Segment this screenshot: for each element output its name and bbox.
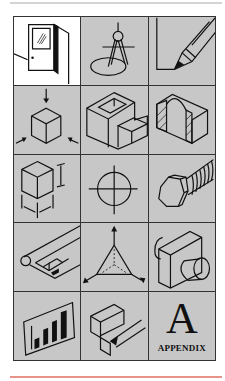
- compass-icon: [81, 17, 147, 85]
- door-icon: [14, 17, 80, 85]
- grid-cell-hex-bolt: [149, 155, 215, 223]
- grid-cell-isometric-axes: [81, 223, 147, 291]
- grid-cell-section-block: [149, 86, 215, 154]
- bar-chart-icon: [14, 292, 80, 360]
- cube-view-arrows-icon: [14, 86, 80, 154]
- blueprint-scroll-icon: [14, 223, 80, 291]
- pencil-corner-icon: [149, 17, 215, 85]
- hollow-block-icon: [81, 86, 147, 154]
- grid-cell-sketching: [81, 292, 147, 360]
- grid-cell-blueprint: [14, 223, 80, 291]
- hex-bolt-icon: [149, 155, 215, 223]
- grid-cell-centerline-circle: [81, 155, 147, 223]
- bottom-accent-rule: [10, 376, 222, 378]
- grid-cell-hollow-block: [81, 86, 147, 154]
- grid-cell-pencil: [149, 17, 215, 85]
- grid-cell-compass: [81, 17, 147, 85]
- cylinder-block-icon: [149, 223, 215, 291]
- grid-cell-appendix: A APPENDIX: [149, 292, 215, 360]
- grid-cell-cylinder-block: [149, 223, 215, 291]
- grid-cell-cube-views: [14, 86, 80, 154]
- grid-cell-dimensioned-cube: [14, 155, 80, 223]
- grid-cell-bar-chart: [14, 292, 80, 360]
- dimensioned-cube-icon: [14, 155, 80, 223]
- centerline-circle-icon: [81, 155, 147, 223]
- appendix-letter: A: [166, 299, 198, 339]
- section-cut-block-icon: [149, 86, 215, 154]
- appendix-label: APPENDIX: [158, 343, 206, 353]
- isometric-axes-icon: [81, 223, 147, 291]
- icon-grid: A APPENDIX: [13, 16, 216, 361]
- sketching-block-icon: [81, 292, 147, 360]
- top-rule: [10, 2, 222, 4]
- grid-cell-door: [14, 17, 80, 85]
